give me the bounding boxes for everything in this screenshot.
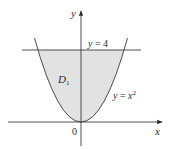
origin-label: 0 [72, 126, 77, 137]
y-axis-label: y [70, 7, 76, 19]
x-axis-label: x [154, 125, 160, 137]
line-label: y = 4 [87, 38, 108, 49]
region-diagram: y x 0 y = 4 D1 y = x2 [0, 0, 172, 149]
parabola-label: y = x2 [112, 89, 137, 101]
